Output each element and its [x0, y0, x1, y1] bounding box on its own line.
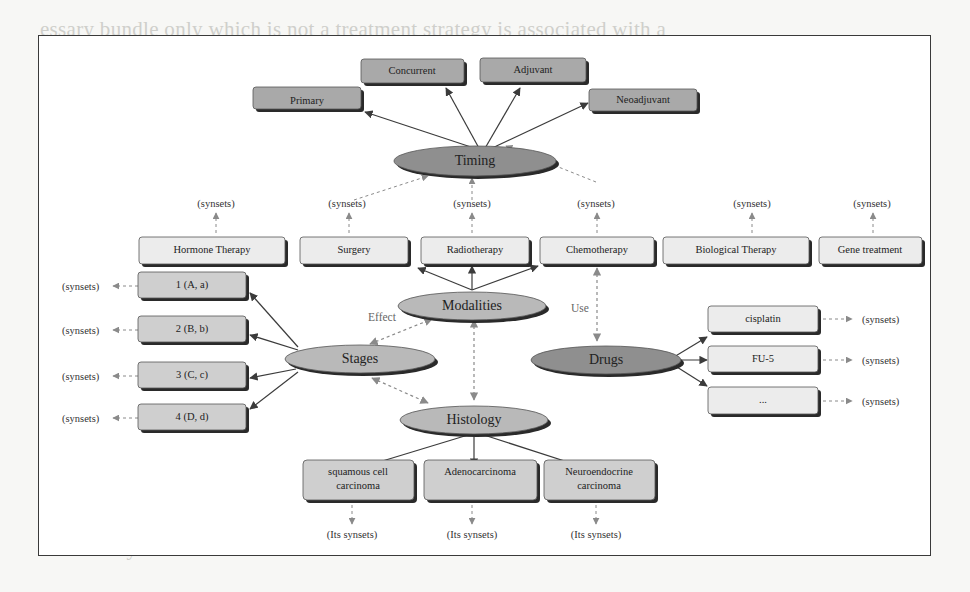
node-more-drugs-label: ... [759, 394, 767, 405]
node-squamous-label-line1: squamous cell [328, 466, 388, 477]
node-primary[interactable]: Primary [253, 87, 364, 112]
its-synsets-squamous: (Its synsets) [327, 529, 378, 541]
node-histology-label: Histology [446, 412, 501, 427]
edge-modalities-chemotherapy [472, 266, 538, 290]
synsets-stage-1: (synsets) [62, 281, 100, 293]
node-adjuvant[interactable]: Adjuvant [480, 58, 589, 85]
node-stage-3[interactable]: 3 (C, c) [138, 362, 249, 391]
synsets-more-drugs: (synsets) [862, 396, 900, 408]
edge-timing-adjuvant [484, 88, 520, 150]
modalities-children: Hormone Therapy Surgery Radiotherapy Che… [139, 237, 925, 267]
node-modalities[interactable]: Modalities [398, 292, 549, 323]
node-stage-4-label: 4 (D, d) [176, 411, 209, 423]
node-concurrent[interactable]: Concurrent [361, 59, 467, 86]
node-adjuvant-label: Adjuvant [513, 64, 552, 75]
node-chemotherapy-label: Chemotherapy [566, 244, 629, 255]
node-stage-4[interactable]: 4 (D, d) [138, 404, 249, 433]
edge-synsets-timing-1 [354, 176, 428, 200]
edge-stages-4 [250, 372, 298, 409]
node-gene-treatment-label: Gene treatment [838, 244, 903, 255]
synsets-chemotherapy: (synsets) [577, 198, 615, 210]
node-gene-treatment[interactable]: Gene treatment [819, 237, 925, 267]
node-timing-label: Timing [455, 153, 496, 168]
edge-stages-2 [250, 335, 298, 350]
node-neuroendocrine-carcinoma[interactable]: Neuroendocrine carcinoma [544, 460, 658, 503]
node-neoadjuvant-label: Neoadjuvant [616, 94, 670, 105]
node-cisplatin-label: cisplatin [745, 313, 781, 324]
edge-modalities-surgery [418, 268, 472, 290]
node-radiotherapy[interactable]: Radiotherapy [421, 237, 532, 267]
histology-children: squamous cell carcinoma Adenocarcinoma N… [303, 460, 658, 503]
synsets-labels-bottom: (Its synsets) (Its synsets) (Its synsets… [327, 529, 622, 541]
its-synsets-neuro: (Its synsets) [571, 529, 622, 541]
synsets-fu5: (synsets) [862, 355, 900, 367]
edge-stages-histology [372, 378, 428, 403]
node-squamous-label-line2: carcinoma [336, 480, 380, 491]
node-neuroendocrine-label-line1: Neuroendocrine [565, 466, 633, 477]
node-modalities-label: Modalities [442, 298, 502, 313]
node-surgery[interactable]: Surgery [300, 237, 411, 267]
node-concurrent-label: Concurrent [388, 65, 435, 76]
synsets-labels-left: (synsets) (synsets) (synsets) (synsets) [62, 281, 100, 425]
node-stages-label: Stages [342, 351, 379, 366]
node-primary-label: Primary [290, 95, 325, 106]
node-surgery-label: Surgery [337, 244, 371, 255]
synsets-biological: (synsets) [733, 198, 771, 210]
node-adenocarcinoma-label: Adenocarcinoma [444, 466, 516, 477]
node-stage-1[interactable]: 1 (A, a) [138, 272, 249, 301]
node-fu5-label: FU-5 [752, 353, 774, 364]
node-stage-2-label: 2 (B, b) [176, 323, 209, 335]
node-drugs[interactable]: Drugs [531, 346, 684, 377]
synsets-stage-2: (synsets) [62, 325, 100, 337]
synsets-radiotherapy: (synsets) [453, 198, 491, 210]
node-stage-2[interactable]: 2 (B, b) [138, 316, 249, 345]
node-drugs-label: Drugs [589, 352, 623, 367]
synsets-labels-top: (synsets) (synsets) (synsets) (synsets) … [197, 198, 891, 210]
node-stage-3-label: 3 (C, c) [176, 369, 208, 381]
timing-children: Primary Concurrent Adjuvant Neoadjuvant [253, 58, 700, 114]
node-timing[interactable]: Timing [394, 146, 559, 179]
node-fu5[interactable]: FU-5 [708, 346, 821, 375]
node-cisplatin[interactable]: cisplatin [708, 306, 821, 335]
synsets-cisplatin: (synsets) [862, 314, 900, 326]
node-more-drugs[interactable]: ... [708, 387, 821, 417]
node-biological-therapy[interactable]: Biological Therapy [663, 237, 812, 267]
synsets-labels-right: (synsets) (synsets) (synsets) [862, 314, 900, 408]
edge-stages-3 [250, 369, 296, 378]
edge-label-use: Use [571, 302, 589, 314]
node-radiotherapy-label: Radiotherapy [447, 244, 504, 255]
edge-stages-1 [250, 293, 298, 347]
synsets-gene: (synsets) [853, 198, 891, 210]
node-stages[interactable]: Stages [285, 345, 438, 376]
synsets-stage-4: (synsets) [62, 413, 100, 425]
node-adenocarcinoma[interactable]: Adenocarcinoma [424, 460, 540, 503]
node-neuroendocrine-label-line2: carcinoma [577, 480, 621, 491]
edge-timing-neoadjuvant [488, 103, 588, 150]
synsets-surgery: (synsets) [328, 198, 366, 210]
drugs-children: cisplatin FU-5 ... [708, 306, 821, 417]
node-biological-therapy-label: Biological Therapy [695, 244, 777, 255]
its-synsets-adeno: (Its synsets) [447, 529, 498, 541]
node-histology[interactable]: Histology [400, 406, 551, 437]
node-hormone-therapy-label: Hormone Therapy [173, 244, 251, 255]
synsets-stage-3: (synsets) [62, 371, 100, 383]
node-neoadjuvant[interactable]: Neoadjuvant [589, 89, 700, 114]
edge-label-effect: Effect [368, 311, 397, 323]
node-squamous-cell-carcinoma[interactable]: squamous cell carcinoma [303, 460, 417, 503]
node-hormone-therapy[interactable]: Hormone Therapy [139, 237, 288, 267]
node-chemotherapy[interactable]: Chemotherapy [540, 237, 657, 267]
stages-children: 1 (A, a) 2 (B, b) 3 (C, c) 4 (D, d) [138, 272, 249, 433]
node-stage-1-label: 1 (A, a) [176, 279, 209, 291]
cancer-treatment-ontology-diagram: Effect Use Primary Concurrent Adjuvant N… [0, 0, 970, 592]
synsets-hormone: (synsets) [197, 198, 235, 210]
